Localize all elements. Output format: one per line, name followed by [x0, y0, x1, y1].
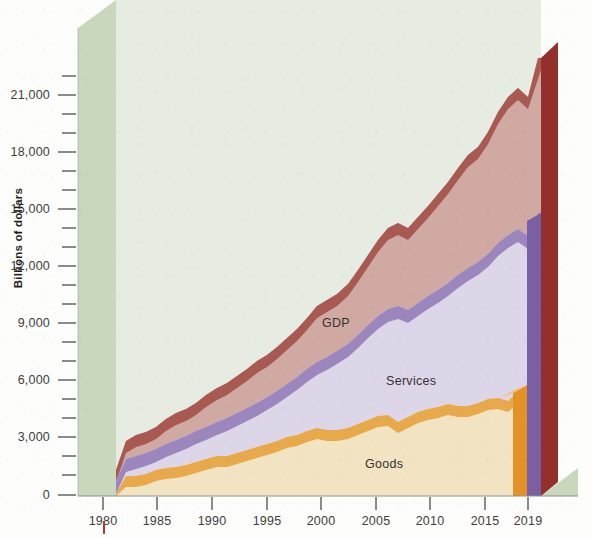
- y-tick-label-0: 0: [0, 489, 50, 502]
- y-tick-label-18000: 18,000: [0, 146, 50, 159]
- series-label-goods: Goods: [365, 457, 403, 471]
- chart-figure: 21,000 18,000 15,000 12,000 9,000 6,000 …: [0, 0, 591, 538]
- print-registration-mark: [103, 521, 105, 534]
- x-tick-label-2005: 2005: [351, 515, 401, 528]
- series-label-gdp: GDP: [322, 316, 350, 330]
- series-side-face-services: [527, 213, 541, 496]
- x-tick-label-1995: 1995: [242, 515, 292, 528]
- series-label-services: Services: [386, 374, 436, 388]
- y-tick-label-21000: 21,000: [0, 89, 50, 102]
- y-tick-label-6000: 6,000: [0, 374, 50, 387]
- y-axis-title: Billions of dollars: [12, 168, 24, 308]
- y-tick-label-3000: 3,000: [0, 431, 50, 444]
- x-tick-label-1985: 1985: [132, 515, 182, 528]
- y-tick-label-12000: 12,000: [0, 260, 50, 273]
- series-side-face-goods: [513, 385, 527, 496]
- x-tick-label-1990: 1990: [187, 515, 237, 528]
- y-tick-label-9000: 9,000: [0, 317, 50, 330]
- area-chart-canvas: [0, 0, 591, 538]
- y-tick-label-15000: 15,000: [0, 203, 50, 216]
- x-axis-ticks: [103, 497, 528, 510]
- y-axis-ticks: [58, 76, 76, 495]
- x-tick-label-2010: 2010: [405, 515, 455, 528]
- x-tick-label-2019: 2019: [503, 515, 553, 528]
- series-side-face-gdp: [541, 42, 558, 496]
- left-side-wall: [78, 0, 116, 496]
- x-tick-label-2000: 2000: [296, 515, 346, 528]
